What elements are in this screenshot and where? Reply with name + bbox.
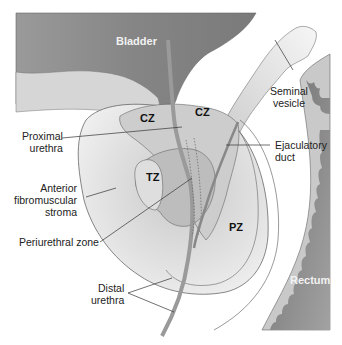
peripheral-zone-label: PZ <box>229 221 243 233</box>
anterior-fibromuscular-stroma-label: Anterior fibromuscular stroma <box>14 182 77 218</box>
transition-zone-label: TZ <box>146 171 159 183</box>
periurethral-zone-label: Periurethral zone <box>19 236 99 248</box>
bladder-label: Bladder <box>116 35 157 47</box>
central-zone-label-left: CZ <box>140 112 155 124</box>
rectum-label: Rectum <box>290 274 330 286</box>
distal-urethra-label: Distal urethra <box>91 282 124 306</box>
bladder <box>16 13 256 113</box>
ejaculatory-duct-label: Ejaculatory duct <box>275 139 327 163</box>
prostate-anatomy-diagram <box>0 0 342 345</box>
central-zone-label-right: CZ <box>195 106 210 118</box>
proximal-urethra-label: Proximal urethra <box>22 130 63 154</box>
seminal-vesicle-label: Seminal vesicle <box>270 85 308 109</box>
